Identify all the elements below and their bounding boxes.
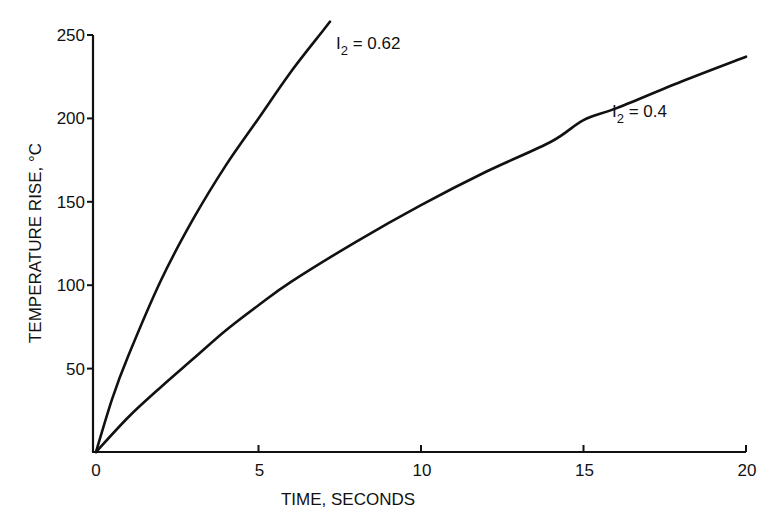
y-axis-ticks: 50100150200250 (57, 26, 93, 379)
x-axis-ticks: 05101520 (91, 445, 756, 480)
x-tick-label: 20 (738, 461, 757, 480)
x-tick-label: 5 (255, 461, 264, 480)
y-tick-label: 200 (57, 109, 85, 128)
y-axis-title: TEMPERATURE RISE, °C (26, 143, 45, 343)
temperature-rise-chart: 50100150200250 05101520 I2 = 0.62I2 = 0.… (0, 0, 779, 526)
x-tick-label: 15 (575, 461, 594, 480)
y-tick-label: 150 (57, 193, 85, 212)
curve-i2-0-62 (96, 22, 330, 452)
label-i2-0-62: I2 = 0.62 (336, 34, 400, 58)
x-axis-title: TIME, SECONDS (281, 490, 415, 509)
x-tick-label: 0 (91, 461, 100, 480)
y-tick-label: 250 (57, 26, 85, 45)
y-tick-label: 50 (66, 360, 85, 379)
axes (92, 35, 746, 452)
curve-labels: I2 = 0.62I2 = 0.4 (336, 34, 667, 126)
curves (96, 22, 746, 452)
y-tick-label: 100 (57, 276, 85, 295)
x-tick-label: 10 (413, 461, 432, 480)
